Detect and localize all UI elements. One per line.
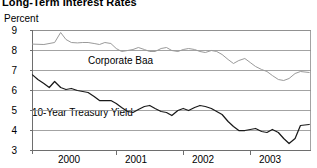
chart-figure: Long-Term Interest Rates Percent 9 8 7 6…	[0, 0, 317, 168]
series-line-corporate-baa	[33, 33, 310, 81]
plot-area	[0, 0, 317, 168]
series-line-10-year-treasury-yield	[33, 75, 310, 144]
